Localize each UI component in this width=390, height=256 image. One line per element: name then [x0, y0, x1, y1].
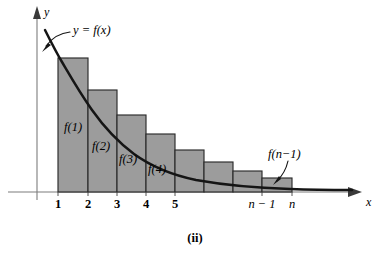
bar-label-f4: f(4) — [148, 163, 166, 176]
figure-caption: (ii) — [0, 232, 390, 245]
bar-label-f3: f(3) — [119, 153, 137, 166]
y-axis — [33, 6, 41, 200]
x-tick-label-2: 2 — [78, 198, 98, 211]
bar-label-fn-1: f(n−1) — [268, 148, 301, 161]
x-tick-label-1: 1 — [48, 198, 68, 211]
curve-equation-label: y = f(x) — [73, 24, 111, 37]
bar-rect — [204, 162, 233, 192]
y-axis-label: y — [44, 6, 49, 18]
bar-group — [58, 58, 292, 192]
x-tick-label-5: 5 — [165, 198, 185, 211]
x-tick-label-n-minus-1: n − 1 — [244, 198, 280, 211]
bar-label-f2: f(2) — [92, 140, 110, 153]
x-tick-marks — [58, 192, 292, 196]
x-tick-label-4: 4 — [136, 198, 156, 211]
figure-container: y x y = f(x) f(1) f(2) f(3) f(4) f(n−1) … — [0, 0, 390, 256]
bar-label-f1: f(1) — [64, 121, 82, 134]
diagram-canvas — [0, 0, 390, 256]
bar-rect — [175, 150, 204, 192]
x-tick-label-n: n — [283, 198, 301, 211]
bar-rect — [233, 171, 262, 192]
x-axis-label: x — [366, 196, 371, 208]
x-tick-label-3: 3 — [107, 198, 127, 211]
